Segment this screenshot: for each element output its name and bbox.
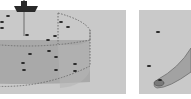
cylinder-diagram bbox=[0, 10, 126, 94]
fish-target-dots bbox=[147, 31, 162, 81]
diagram-panel-cylinder bbox=[0, 10, 126, 94]
diagram-panel-beam bbox=[139, 10, 191, 94]
beam-diagram bbox=[139, 10, 191, 94]
ship-icon bbox=[10, 0, 50, 14]
